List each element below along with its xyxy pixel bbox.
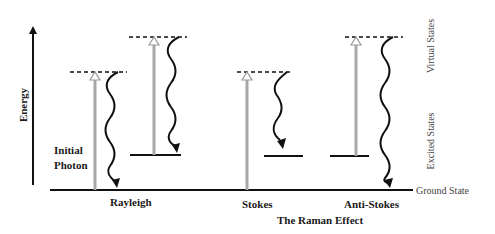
- initial-photon-label-line1: Initial: [54, 144, 83, 156]
- anti-stokes-process: [330, 37, 403, 188]
- energy-axis: [29, 26, 37, 185]
- excited-rayleigh-process: [129, 37, 187, 155]
- process-label-rayleigh: Rayleigh: [110, 196, 152, 208]
- rayleigh-process: [70, 72, 127, 190]
- excited-states-label: Excited States: [425, 112, 436, 169]
- process-label-stokes: Stokes: [242, 198, 273, 210]
- energy-axis-label: Energy: [17, 87, 29, 122]
- scattered-photon-wave: [106, 72, 119, 182]
- process-label-anti-stokes: Anti-Stokes: [344, 198, 400, 210]
- diagram-title: The Raman Effect: [277, 214, 363, 226]
- scattered-photon-wave: [274, 72, 287, 140]
- scattered-photon-wave: [381, 37, 394, 183]
- stokes-process: [237, 72, 303, 190]
- scattered-photon-wave: [167, 37, 180, 146]
- virtual-states-label: Virtual States: [425, 19, 436, 73]
- initial-photon-label-line2: Photon: [54, 159, 88, 171]
- raman-diagram: Energy Initial Photon Rayle: [0, 0, 495, 234]
- ground-state-label: Ground State: [416, 185, 470, 196]
- arrow-up-icon: [29, 26, 37, 34]
